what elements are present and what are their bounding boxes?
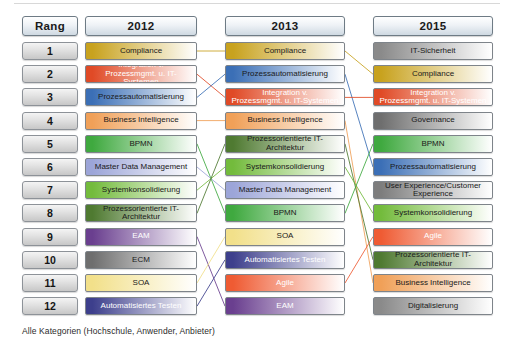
bar-label: Governance — [377, 116, 489, 125]
bar-label: Digitalisierung — [377, 302, 489, 311]
connector-line — [345, 74, 373, 167]
bar-2015-rank-12: Digitalisierung — [373, 297, 493, 315]
bar-2012-rank-12: Automatisiertes Testen — [85, 297, 197, 315]
rank-cell-4: 4 — [22, 112, 78, 130]
connector-line — [197, 260, 225, 306]
bar-label: EAM — [89, 232, 193, 241]
bar-label: Integration v. Prozessmgmt. u. IT-System… — [89, 65, 193, 83]
connector-line — [345, 51, 373, 74]
bar-label: Integration v. Prozessmgmt. u. IT-System… — [229, 89, 341, 106]
bar-label: SOA — [229, 232, 341, 241]
bar-2015-rank-10: Prozessorientierte IT-Architektur — [373, 251, 493, 269]
bar-2012-rank-5: BPMN — [85, 135, 197, 153]
bar-2012-rank-6: Master Data Management — [85, 158, 197, 176]
rank-cell-2: 2 — [22, 65, 78, 83]
bar-2015-rank-4: Governance — [373, 112, 493, 130]
bar-2013-rank-3: Integration v. Prozessmgmt. u. IT-System… — [225, 88, 345, 106]
bar-2013-rank-7: Master Data Management — [225, 181, 345, 199]
column-header-2012: 2012 — [85, 16, 197, 36]
bar-2013-rank-2: Prozessautomatisierung — [225, 65, 345, 83]
rank-cell-1: 1 — [22, 42, 78, 60]
bar-2013-rank-4: Business Intelligence — [225, 112, 345, 130]
bar-label: Compliance — [377, 70, 489, 79]
connector-line — [197, 144, 225, 214]
bar-label: EAM — [229, 302, 341, 311]
bar-label: BPMN — [229, 209, 341, 218]
bar-2012-rank-11: SOA — [85, 274, 197, 292]
connector-line — [345, 144, 373, 260]
bar-label: Master Data Management — [229, 186, 341, 195]
bar-label: Prozessorientierte IT-Architektur — [377, 251, 489, 268]
rank-cell-9: 9 — [22, 228, 78, 246]
bar-2013-rank-9: SOA — [225, 228, 345, 246]
bar-label: BPMN — [89, 140, 193, 149]
bar-label: Systemkonsolidierung — [377, 209, 489, 218]
bar-label: BPMN — [377, 140, 489, 149]
bar-2013-rank-11: Agile — [225, 274, 345, 292]
bar-label: Integration v. Prozessmgmt. u. IT-System… — [377, 89, 489, 106]
bar-2012-rank-9: EAM — [85, 228, 197, 246]
connector-line — [197, 74, 225, 97]
column-header-rank: Rang — [22, 16, 78, 36]
bar-label: Prozessautomatisierung — [89, 93, 193, 102]
bar-2012-rank-1: Compliance — [85, 42, 197, 60]
bar-label: Compliance — [89, 47, 193, 56]
bar-label: Compliance — [229, 47, 341, 56]
bar-label: Business Intelligence — [89, 116, 193, 125]
bar-2013-rank-12: EAM — [225, 297, 345, 315]
rank-cell-6: 6 — [22, 158, 78, 176]
bar-2013-rank-10: Automatisiertes Testen — [225, 251, 345, 269]
bar-2013-rank-1: Compliance — [225, 42, 345, 60]
bar-label: Systemkonsolidierung — [229, 163, 341, 172]
connector-line — [197, 144, 225, 214]
connector-line — [345, 144, 373, 214]
bar-label: Agile — [377, 232, 489, 241]
bar-2013-rank-6: Systemkonsolidierung — [225, 158, 345, 176]
connector-line — [197, 74, 225, 97]
connector-line — [197, 167, 225, 190]
connector-line — [345, 121, 373, 283]
connector-line — [197, 167, 225, 190]
connector-line — [197, 237, 225, 307]
bar-label: Business Intelligence — [377, 279, 489, 288]
bar-label: Prozessautomatisierung — [229, 70, 341, 79]
bar-label: Master Data Management — [89, 163, 193, 172]
bar-2015-rank-9: Agile — [373, 228, 493, 246]
footer-note: Alle Kategorien (Hochschule, Anwender, A… — [22, 326, 215, 336]
bar-label: Systemkonsolidierung — [89, 186, 193, 195]
rank-cell-12: 12 — [22, 297, 78, 315]
bar-2015-rank-11: Business Intelligence — [373, 274, 493, 292]
bar-2012-rank-10: ECM — [85, 251, 197, 269]
bar-2012-rank-8: Prozessorientierte IT-Architektur — [85, 204, 197, 222]
bar-2015-rank-6: Prozessautomatisierung — [373, 158, 493, 176]
bar-2013-rank-8: BPMN — [225, 204, 345, 222]
bar-label: Agile — [229, 279, 341, 288]
bar-label: Automatisiertes Testen — [229, 256, 341, 265]
bar-label: Prozessautomatisierung — [377, 163, 489, 172]
rank-cell-3: 3 — [22, 88, 78, 106]
bar-2015-rank-7: User Experience/Customer Experience — [373, 181, 493, 199]
bar-2015-rank-3: Integration v. Prozessmgmt. u. IT-System… — [373, 88, 493, 106]
bar-2015-rank-1: IT-Sicherheit — [373, 42, 493, 60]
bar-label: Prozessorientierte IT-Architektur — [89, 205, 193, 222]
bar-2015-rank-5: BPMN — [373, 135, 493, 153]
rank-cell-5: 5 — [22, 135, 78, 153]
bar-label: IT-Sicherheit — [377, 47, 489, 56]
rank-cell-8: 8 — [22, 204, 78, 222]
rank-cell-11: 11 — [22, 274, 78, 292]
bar-2015-rank-2: Compliance — [373, 65, 493, 83]
connector-line — [197, 237, 225, 283]
bar-label: ECM — [89, 256, 193, 265]
bar-2013-rank-5: Prozessorientierte IT-Architektur — [225, 135, 345, 153]
rank-comparison-chart: Rang201220132015 123456789101112 Complia… — [0, 0, 511, 346]
bar-label: SOA — [89, 279, 193, 288]
bar-2012-rank-7: Systemkonsolidierung — [85, 181, 197, 199]
bar-2012-rank-2: Integration v. Prozessmgmt. u. IT-System… — [85, 65, 197, 83]
column-header-2013: 2013 — [225, 16, 345, 36]
bar-label: Automatisiertes Testen — [89, 302, 193, 311]
rank-cell-10: 10 — [22, 251, 78, 269]
bar-2015-rank-8: Systemkonsolidierung — [373, 204, 493, 222]
column-header-2015: 2015 — [373, 16, 493, 36]
connector-line — [345, 237, 373, 283]
bar-label: User Experience/Customer Experience — [377, 182, 489, 199]
